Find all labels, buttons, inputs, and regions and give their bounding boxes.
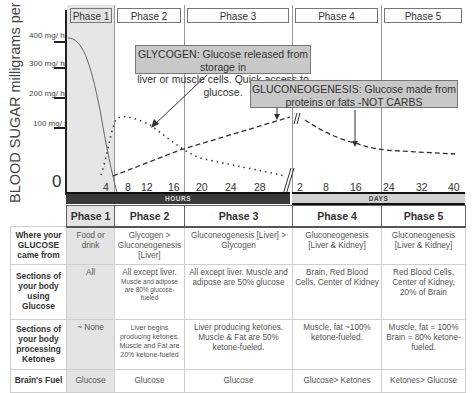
table-phase-5: Phase 5 <box>382 206 466 227</box>
hours-axis-bar: HOURS <box>66 192 290 204</box>
cell: All except liver. Muscle and adipose are… <box>185 264 293 319</box>
cell: Gluconeogenesis [Liver] > Glycogen <box>185 227 293 265</box>
days-axis-bar: DAYS <box>292 192 465 205</box>
cell: Food or drink <box>67 227 115 265</box>
cell: Glucose <box>185 369 293 392</box>
table-phase-2: Phase 2 <box>115 206 185 227</box>
row-label-glucose-users: Sections of your body using Glucose <box>11 264 67 319</box>
table-row-ketone-users: Sections of your body processing Ketones… <box>11 319 466 369</box>
cell-detail: Muscle and adipose are 80% glucose-fuele… <box>117 278 182 302</box>
cell: Glucose <box>67 369 115 392</box>
cell: Muscle, fat = 100% Brain = 80% ketone-fu… <box>382 319 466 369</box>
cell: Glycogen > Gluconeogenesis [Liver] <box>115 227 185 265</box>
cell: ~ None <box>67 319 115 369</box>
gluconeogenesis-callout-line1: GLUCONEOGENESIS: Glucose made from <box>251 83 457 96</box>
table-phase-4: Phase 4 <box>293 206 382 227</box>
table-phase-1: Phase 1 <box>67 206 115 227</box>
cell: Brain, Red Blood Cells, Center of Kidney <box>293 264 382 319</box>
table-row-brain-fuel: Brain's Fuel Glucose Glucose Glucose Glu… <box>11 369 466 392</box>
cell: Liver producing ketones. Muscle & Fat ar… <box>185 319 293 369</box>
table-corner <box>11 206 67 227</box>
table-phase-3: Phase 3 <box>185 206 293 227</box>
glycogen-callout: GLYCOGEN: Glucose released from storage … <box>135 45 311 74</box>
cell: Red Blood Cells, Center of Kidney, 20% o… <box>382 264 466 319</box>
cell: Glucose> Ketones <box>293 369 382 392</box>
cell: Glucose <box>115 369 185 392</box>
gluconeogenesis-callout: GLUCONEOGENESIS: Glucose made from prote… <box>250 80 458 108</box>
cell: Liver begins producing ketones. Muscle a… <box>115 319 185 369</box>
table-header-row: Phase 1 Phase 2 Phase 3 Phase 4 Phase 5 <box>11 206 466 227</box>
glycogen-callout-line1: GLYCOGEN: Glucose released from storage … <box>136 48 310 73</box>
cell: All <box>67 264 115 319</box>
phase-info-table: Phase 1 Phase 2 Phase 3 Phase 4 Phase 5 … <box>10 205 466 393</box>
cell: Ketones> Glucose <box>382 369 466 392</box>
row-label-brain-fuel: Brain's Fuel <box>11 369 67 392</box>
cell: All except liver. Muscle and adipose are… <box>115 264 185 319</box>
cell: Muscle, fat ~100% ketone-fueled. <box>293 319 382 369</box>
cell: Gluconeogenesis [Liver & Kidney] <box>293 227 382 265</box>
row-label-ketone-users: Sections of your body processing Ketones <box>11 319 67 369</box>
cell: Gluconeogenesis [Liver & Kidney] <box>382 227 466 265</box>
gluconeogenesis-callout-line2: proteins or fats -NOT CARBS <box>251 96 457 109</box>
table-row-glucose-users: Sections of your body using Glucose All … <box>11 264 466 319</box>
table-row-glucose-source: Where your GLUCOSE came from Food or dri… <box>11 227 466 265</box>
cell-main: All except liver. <box>122 268 177 277</box>
row-label-glucose-source: Where your GLUCOSE came from <box>11 227 67 265</box>
